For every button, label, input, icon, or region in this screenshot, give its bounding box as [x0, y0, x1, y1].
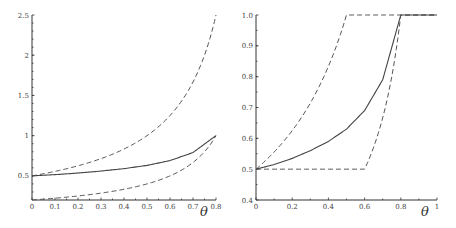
series-dashed-line	[32, 136, 216, 200]
y-tick-label: 0.8	[242, 73, 253, 81]
x-tick-label: 0.4	[118, 203, 130, 211]
x-tick-label: 0.4	[323, 203, 335, 211]
x-tick-label: 0.2	[72, 203, 83, 211]
x-axis-label: θ	[421, 204, 429, 219]
plot-panel-2: 00.20.40.60.810.40.50.60.70.80.91.0θ	[242, 12, 439, 220]
x-tick-label: 0.8	[395, 203, 406, 211]
series-solid-line	[256, 15, 437, 169]
chart-canvas: 00.10.20.30.40.50.60.70.80.511.522.5θ00.…	[0, 0, 456, 228]
series-dashed-line	[32, 15, 216, 176]
x-tick-label: 1	[435, 203, 439, 211]
x-tick-label: 0.2	[287, 203, 298, 211]
y-tick-label: 0.9	[242, 42, 253, 50]
x-tick-label: 0	[254, 203, 258, 211]
y-tick-label: 0.4	[242, 197, 254, 205]
series-dashed-line	[256, 15, 437, 169]
y-tick-label: 0.6	[242, 135, 254, 143]
series-dashed-line	[256, 15, 437, 169]
y-tick-label: 0.5	[18, 172, 29, 180]
y-tick-label: 1	[25, 132, 29, 140]
x-tick-label: 0.5	[141, 203, 152, 211]
y-tick-label: 0.7	[242, 104, 253, 112]
x-tick-label: 0.8	[210, 203, 221, 211]
x-tick-label: 0.3	[95, 203, 106, 211]
series-solid-line	[32, 136, 216, 176]
y-tick-label: 1.0	[242, 12, 253, 20]
y-tick-label: 1.5	[18, 92, 29, 100]
x-tick-label: 0.6	[359, 203, 371, 211]
plot-panel-1: 00.10.20.30.40.50.60.70.80.511.522.5θ	[18, 12, 222, 220]
y-tick-label: 0.5	[242, 166, 253, 174]
x-axis-label: θ	[200, 204, 208, 219]
x-tick-label: 0.7	[187, 203, 198, 211]
y-tick-label: 2.5	[18, 12, 29, 20]
x-tick-label: 0	[30, 203, 34, 211]
x-tick-label: 0.6	[164, 203, 176, 211]
y-tick-label: 2	[25, 52, 29, 60]
x-tick-label: 0.1	[49, 203, 60, 211]
